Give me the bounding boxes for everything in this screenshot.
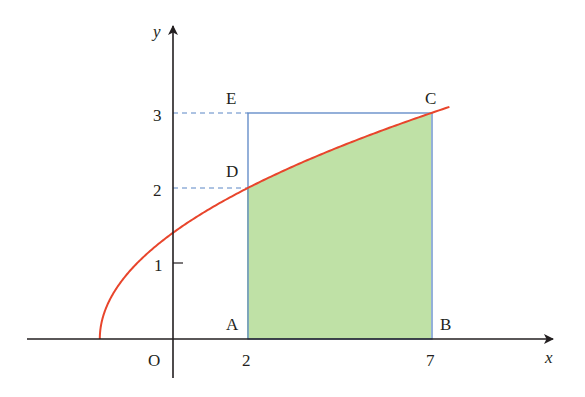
x-tick-label-2: 2 [242, 351, 251, 370]
point-label-e: E [226, 89, 236, 108]
x-axis-label-text: x [544, 348, 553, 367]
y-axis-label: y [151, 22, 161, 41]
y-tick-label-1: 1 [154, 256, 163, 275]
function-area-diagram: y x x O 2 7 1 2 3 A B C D E [0, 0, 585, 397]
point-label-b: B [440, 315, 451, 334]
y-tick-label-2: 2 [153, 181, 162, 200]
x-tick-label-7: 7 [426, 351, 435, 370]
point-label-d: D [226, 162, 238, 181]
origin-label: O [148, 351, 160, 370]
point-label-a: A [226, 315, 239, 334]
y-tick-label-3: 3 [153, 106, 162, 125]
point-label-c: C [425, 89, 436, 108]
